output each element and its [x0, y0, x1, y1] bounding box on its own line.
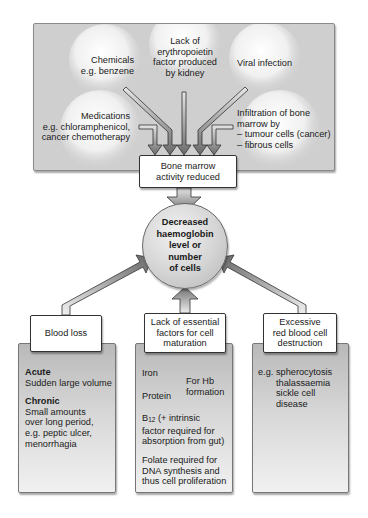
decreased-haemoglobin-circle: Decreased haemoglobin level or number of…: [142, 203, 228, 289]
up-arrow: [172, 287, 198, 313]
blood-loss-details: Acute Sudden large volume Chronic Small …: [25, 367, 115, 449]
acute-text: Sudden large volume: [25, 378, 115, 389]
cause-chemicals: Chemicals e.g. benzene: [78, 55, 134, 76]
cause-line: Infiltration of bone: [237, 108, 333, 119]
panel-title: Blood loss: [45, 328, 87, 339]
folate-text: DNA synthesis and: [142, 466, 237, 477]
chronic-text: Small amounts: [25, 407, 115, 418]
hb-line: formation: [186, 387, 224, 398]
essential-factors-title-box: Lack of essential factors for cell matur…: [144, 313, 226, 353]
cause-infiltration: Infiltration of bone marrow by – tumour …: [237, 108, 333, 150]
chronic-text: e.g. peptic ulcer,: [25, 428, 115, 439]
cause-example: cancer chemotherapy: [40, 132, 130, 143]
b12-text: factor required for: [142, 426, 234, 437]
example-item: thalassaemia: [276, 378, 348, 389]
example-item: sickle cell: [276, 388, 348, 399]
cause-line: marrow by: [237, 119, 333, 130]
cause-viral: Viral infection: [237, 58, 317, 69]
cause-line: factor produced: [145, 57, 225, 68]
cause-example: e.g. benzene: [78, 66, 134, 77]
bone-marrow-box: Bone marrow activity reduced: [139, 155, 237, 188]
panel-title-line: Excessive: [273, 317, 328, 328]
box-line: Bone marrow: [156, 161, 220, 172]
folate-details: Folate required for DNA synthesis and th…: [142, 455, 237, 487]
acute-heading: Acute: [25, 367, 115, 378]
cause-line: by kidney: [145, 68, 225, 79]
panel-title-line: red blood cell: [273, 328, 328, 339]
chronic-text: over long period,: [25, 417, 115, 428]
cause-title: Medications: [40, 111, 130, 122]
rbc-destruction-panel: [252, 343, 349, 493]
outcome-line: haemoglobin: [156, 229, 213, 241]
panel-title-line: destruction: [273, 338, 328, 349]
outcome-line: level or: [156, 240, 213, 252]
right-arrow: [218, 255, 306, 315]
hb-formation-label: For Hb formation: [186, 376, 224, 397]
blood-loss-title-box: Blood loss: [30, 315, 102, 352]
rbc-destruction-examples: spherocytosis thalassaemia sickle cell d…: [276, 367, 348, 409]
cause-medications: Medications e.g. chloramphenicol, cancer…: [40, 111, 130, 143]
chronic-heading: Chronic: [25, 396, 115, 407]
b12-text: absorption from gut): [142, 436, 234, 447]
top-arrows: [123, 87, 248, 155]
panel-title-line: maturation: [151, 338, 219, 349]
protein-label: Protein: [142, 391, 171, 402]
eg-label: e.g.: [258, 367, 273, 378]
folate-text: thus cell proliferation: [142, 476, 237, 487]
cause-example: e.g. chloramphenicol,: [40, 122, 130, 133]
panel-title-line: factors for cell: [151, 328, 219, 339]
cause-title: Chemicals: [78, 55, 134, 66]
box-line: activity reduced: [156, 172, 220, 183]
cause-line: Lack of: [145, 36, 225, 47]
example-item: disease: [276, 399, 348, 410]
chronic-text: menorrhagia: [25, 439, 115, 450]
b12-details: B12 (+ intrinsic factor required for abs…: [142, 413, 234, 447]
cause-line: erythropoietin: [145, 47, 225, 58]
example-item: spherocytosis: [276, 367, 348, 378]
outcome-line: Decreased: [156, 217, 213, 229]
rbc-destruction-title-box: Excessive red blood cell destruction: [263, 313, 337, 353]
iron-label: Iron: [142, 368, 158, 379]
b12-text: (+ intrinsic: [155, 413, 200, 423]
outcome-line: of cells: [156, 263, 213, 275]
outcome-line: number: [156, 252, 213, 264]
folate-text: Folate required for: [142, 455, 237, 466]
hb-line: For Hb: [186, 376, 224, 387]
cause-line: – fibrous cells: [237, 140, 333, 151]
left-arrow: [62, 255, 152, 315]
cause-line: – tumour cells (cancer): [237, 129, 333, 140]
panel-title-line: Lack of essential: [151, 317, 219, 328]
cause-title: Viral infection: [237, 58, 317, 69]
cause-erythropoietin: Lack of erythropoietin factor produced b…: [145, 36, 225, 78]
